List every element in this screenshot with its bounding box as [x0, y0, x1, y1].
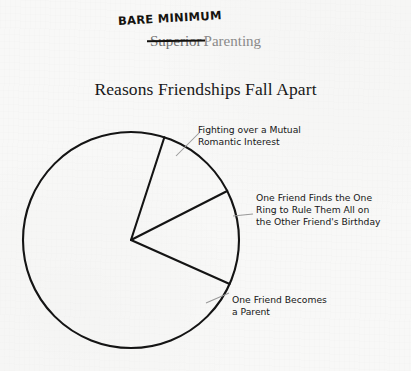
pie-slice-dividers [131, 137, 230, 284]
slice-label-becomes-a-parent: One Friend Becomes a Parent [232, 294, 356, 318]
printed-series-title: SuperiorParenting [0, 33, 411, 50]
struck-through-word: Superior [150, 33, 202, 49]
pie-slice-divider-2 [131, 240, 230, 284]
slice-label-romantic-interest: Fighting over a Mutual Romantic Interest [198, 124, 320, 148]
chart-title: Reasons Friendships Fall Apart [0, 79, 411, 100]
leader-line-parent [206, 293, 229, 303]
slice-label-one-ring: One Friend Finds the One Ring to Rule Th… [256, 192, 404, 229]
series-title-word: Parenting [204, 33, 262, 49]
